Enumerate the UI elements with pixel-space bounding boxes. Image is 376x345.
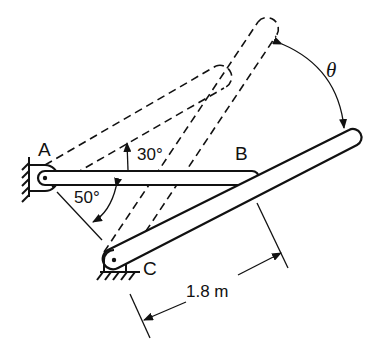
label-angle-30: 30°: [137, 145, 163, 165]
theta-arc: [282, 44, 344, 128]
pin-a: [43, 176, 47, 180]
label-b: B: [235, 143, 248, 165]
rod-ab: [38, 171, 259, 185]
mechanism-diagram: A B C 30° 50° θ 1.8 m: [0, 0, 376, 345]
label-theta: θ: [326, 58, 336, 83]
pin-c: [112, 258, 116, 262]
label-c: C: [143, 258, 157, 280]
label-angle-50: 50°: [74, 188, 100, 208]
label-a: A: [38, 139, 51, 161]
angle-30-arrow: [127, 143, 128, 170]
rod-ab-rotated-dashed: [45, 65, 232, 187]
label-length: 1.8 m: [186, 282, 229, 302]
